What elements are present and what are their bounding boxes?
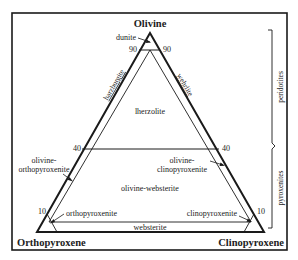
group-peridotites: peridotites <box>276 71 285 103</box>
ternary-diagram: Olivine Orthopyroxene Clinopyroxene 90 9… <box>0 0 298 260</box>
vertex-olivine: Olivine <box>134 18 167 29</box>
boundary-cpx-10 <box>150 50 251 222</box>
field-dunite: dunite <box>116 33 136 42</box>
tick-right-90: 90 <box>163 45 171 54</box>
boundary-opx-10 <box>49 50 150 222</box>
field-olivine-clinopyroxenite-line1: olivine- <box>170 156 195 165</box>
boundary-cpx-corner <box>244 214 254 232</box>
field-orthopyroxenite: orthopyroxenite <box>66 209 118 218</box>
tick-left-10: 10 <box>38 207 46 216</box>
tick-right-40: 40 <box>222 144 230 153</box>
tick-left-90: 90 <box>129 45 137 54</box>
field-olivine-orthopyroxenite-line2: orthopyroxenite <box>18 165 70 174</box>
vertex-orthopyroxene: Orthopyroxene <box>17 237 86 248</box>
field-olivine-websterite: olivine-websterite <box>121 184 179 193</box>
tick-left-40: 40 <box>73 144 81 153</box>
field-olivine-orthopyroxenite-line1: olivine- <box>32 156 57 165</box>
field-lherzolite: lherzolite <box>135 107 166 116</box>
dunite-arrowhead <box>146 40 151 44</box>
group-pyroxenites: pyroxenites <box>276 170 285 205</box>
main-triangle <box>37 33 264 232</box>
vertex-clinopyroxene: Clinopyroxene <box>218 237 284 248</box>
field-clinopyroxenite: clinopyroxenite <box>187 209 238 218</box>
tick-right-10: 10 <box>257 207 265 216</box>
bracket-peridotites <box>268 30 275 146</box>
field-olivine-clinopyroxenite-line2: clinopyroxenite <box>157 165 208 174</box>
bracket-pyroxenites <box>268 146 275 228</box>
field-websterite: websterite <box>134 223 167 232</box>
